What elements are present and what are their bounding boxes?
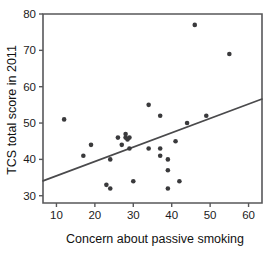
data-point bbox=[177, 179, 182, 184]
y-tick-label: 60 bbox=[23, 81, 36, 93]
x-axis-title: Concern about passive smoking bbox=[66, 232, 244, 246]
x-tick-label: 40 bbox=[165, 209, 178, 221]
y-axis-ticks: 304050607080 bbox=[23, 8, 43, 202]
data-point bbox=[62, 117, 67, 122]
data-point bbox=[127, 146, 132, 151]
data-point bbox=[204, 113, 209, 118]
data-point bbox=[108, 157, 113, 162]
y-tick-label: 40 bbox=[23, 153, 36, 165]
data-point bbox=[185, 121, 190, 126]
y-tick-label: 30 bbox=[23, 190, 36, 202]
data-point bbox=[123, 132, 128, 137]
data-points bbox=[62, 23, 232, 191]
data-point bbox=[158, 113, 163, 118]
data-point bbox=[166, 186, 171, 191]
data-point bbox=[173, 139, 178, 144]
x-tick-label: 30 bbox=[127, 209, 140, 221]
data-point bbox=[146, 103, 151, 108]
y-axis-title: TCS total score in 2011 bbox=[5, 45, 19, 175]
y-tick-label: 70 bbox=[23, 44, 36, 56]
x-tick-label: 20 bbox=[88, 209, 101, 221]
data-point bbox=[192, 23, 197, 28]
y-tick-label: 80 bbox=[23, 8, 36, 20]
x-tick-label: 10 bbox=[50, 209, 63, 221]
x-tick-label: 60 bbox=[242, 209, 255, 221]
plot-canvas: 304050607080 102030405060 TCS total scor… bbox=[0, 0, 276, 256]
data-point bbox=[81, 153, 86, 158]
data-point bbox=[166, 168, 171, 173]
data-point bbox=[104, 183, 109, 188]
data-point bbox=[108, 186, 113, 191]
scatter-plot-figure: 304050607080 102030405060 TCS total scor… bbox=[0, 0, 276, 256]
x-tick-label: 50 bbox=[204, 209, 217, 221]
data-point bbox=[166, 157, 171, 162]
data-point bbox=[119, 143, 124, 148]
data-point bbox=[146, 146, 151, 151]
x-axis-ticks: 102030405060 bbox=[50, 203, 255, 221]
data-point bbox=[131, 179, 136, 184]
regression-line bbox=[43, 99, 262, 181]
data-point bbox=[158, 146, 163, 151]
data-point bbox=[227, 52, 232, 57]
data-point bbox=[158, 153, 163, 158]
data-point bbox=[116, 135, 121, 140]
axis-frame bbox=[43, 14, 262, 203]
data-point bbox=[127, 135, 132, 140]
y-tick-label: 50 bbox=[23, 117, 36, 129]
data-point bbox=[89, 143, 94, 148]
